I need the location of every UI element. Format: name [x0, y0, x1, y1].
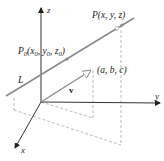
- dashed-diagonal-long: [14, 110, 121, 145]
- x-axis-label: x: [20, 145, 25, 155]
- point-p0: [65, 57, 68, 60]
- dashed-origin-to-abc-base: [41, 102, 93, 118]
- vector-components-label: (a, b, c): [97, 65, 127, 76]
- line-l-label: L: [17, 74, 24, 85]
- vector-v: [41, 71, 90, 102]
- point-p: [120, 23, 123, 26]
- vector-v-label: v: [69, 85, 74, 95]
- y-axis-label: y: [154, 91, 159, 101]
- diagram-canvas: z y x P(x, y, z) P0(x0, y0, z0) L v (a, …: [0, 0, 164, 161]
- z-axis-label: z: [46, 5, 51, 15]
- point-p-label: P(x, y, z): [91, 10, 125, 21]
- vector-to-p-tip: [112, 27, 119, 31]
- x-axis: [15, 102, 41, 148]
- p0-z: , z: [50, 46, 59, 56]
- y-axis: [41, 102, 160, 103]
- p0-close: ): [61, 46, 65, 57]
- point-p0-label: P0(x0, y0, z0): [17, 46, 65, 57]
